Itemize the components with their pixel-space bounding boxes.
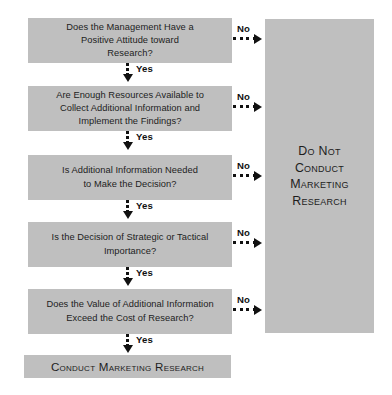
arrowhead-right-icon	[254, 34, 262, 44]
yes-connector-label: Yes	[136, 334, 153, 345]
outcome-panel-do-not-conduct-marketing-research[interactable]: Do Not Conduct Marketing Research	[265, 19, 374, 333]
dotted-line-icon	[233, 37, 256, 40]
yes-connector-label: Yes	[136, 63, 153, 74]
arrowhead-down-icon	[123, 278, 133, 286]
decision-node-label: Is the Decision of Strategic or Tactical…	[52, 231, 209, 257]
arrowhead-down-icon	[123, 345, 133, 353]
decision-node-management-attitude[interactable]: Does the Management Have a Positive Atti…	[28, 18, 232, 63]
no-connector-label: No	[237, 160, 250, 171]
decision-node-label: Are Enough Resources Available to Collec…	[56, 89, 204, 129]
dotted-line-icon	[233, 241, 256, 244]
no-connector-3: No	[233, 161, 273, 183]
dotted-line-icon	[233, 105, 256, 108]
decision-node-enough-resources[interactable]: Are Enough Resources Available to Collec…	[28, 86, 232, 131]
outcome-panel-label: Do Not Conduct Marketing Research	[290, 143, 349, 209]
no-connector-1: No	[233, 24, 273, 46]
dotted-line-icon	[233, 174, 256, 177]
arrowhead-right-icon	[254, 238, 262, 248]
decision-node-additional-information-needed[interactable]: Is Additional Information Needed to Make…	[28, 155, 232, 200]
decision-node-value-exceeds-cost[interactable]: Does the Value of Additional Information…	[28, 289, 232, 334]
yes-connector-4: Yes	[123, 267, 163, 290]
no-connector-2: No	[233, 92, 273, 114]
decision-node-label: Does the Value of Additional Information…	[46, 298, 213, 324]
yes-connector-label: Yes	[136, 200, 153, 211]
flowchart-canvas: Does the Management Have a Positive Atti…	[0, 0, 392, 395]
yes-connector-label: Yes	[136, 267, 153, 278]
no-connector-label: No	[237, 227, 250, 238]
yes-connector-1: Yes	[123, 63, 163, 86]
terminal-node-conduct-marketing-research[interactable]: Conduct Marketing Research	[24, 355, 231, 378]
no-connector-label: No	[237, 23, 250, 34]
decision-node-strategic-or-tactical[interactable]: Is the Decision of Strategic or Tactical…	[28, 222, 232, 267]
no-connector-label: No	[237, 91, 250, 102]
no-connector-4: No	[233, 228, 273, 250]
arrowhead-down-icon	[123, 142, 133, 150]
yes-connector-5: Yes	[123, 334, 163, 357]
yes-connector-label: Yes	[136, 131, 153, 142]
arrowhead-right-icon	[254, 171, 262, 181]
arrowhead-down-icon	[123, 211, 133, 219]
arrowhead-right-icon	[254, 305, 262, 315]
no-connector-5: No	[233, 295, 273, 317]
yes-connector-2: Yes	[123, 131, 163, 154]
dotted-line-icon	[233, 308, 256, 311]
terminal-node-label: Conduct Marketing Research	[51, 360, 204, 374]
decision-node-label: Is Additional Information Needed to Make…	[62, 164, 198, 190]
decision-node-label: Does the Management Have a Positive Atti…	[66, 21, 193, 61]
yes-connector-3: Yes	[123, 200, 163, 223]
arrowhead-right-icon	[254, 102, 262, 112]
no-connector-label: No	[237, 294, 250, 305]
arrowhead-down-icon	[123, 74, 133, 82]
